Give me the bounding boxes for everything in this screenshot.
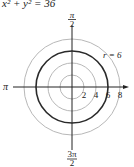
equation-text: x² + y² = 36 (1, 0, 56, 9)
polar-plot: x² + y² = 36 π 2 3π 2 π r = 6 2 4 6 8 (0, 0, 134, 167)
label-bottom-den: 2 (70, 158, 75, 167)
label-top-den: 2 (70, 19, 75, 29)
tick-8: 8 (118, 90, 123, 100)
tick-6: 6 (106, 90, 111, 100)
arrow-icon (123, 85, 129, 89)
tick-2: 2 (82, 90, 87, 100)
tick-4: 4 (94, 90, 99, 100)
label-circle: r = 6 (103, 50, 122, 60)
label-left: π (3, 81, 9, 92)
